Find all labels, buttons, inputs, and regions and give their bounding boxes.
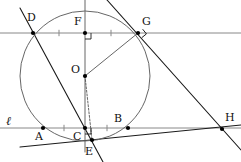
segment-og-radius: [85, 33, 138, 76]
point-b: [126, 126, 130, 130]
point-e: [90, 138, 94, 142]
label-point-f: F: [74, 16, 82, 27]
label-point-g: G: [142, 16, 151, 27]
label-point-b: B: [114, 113, 122, 124]
label-point-c: C: [73, 131, 81, 142]
label-line-ell: ℓ: [6, 115, 11, 127]
label-point-a: A: [35, 131, 43, 142]
point-c: [83, 126, 87, 130]
point-f: [83, 31, 87, 35]
point-o: [83, 74, 87, 78]
point-h: [220, 127, 224, 131]
point-d: [31, 31, 35, 35]
label-point-h: H: [225, 112, 235, 123]
label-point-o: O: [71, 64, 80, 75]
point-g: [136, 31, 140, 35]
geometry-figure: DFGOACBHEℓ: [0, 0, 241, 162]
label-point-d: D: [27, 12, 36, 23]
label-point-e: E: [85, 146, 93, 157]
